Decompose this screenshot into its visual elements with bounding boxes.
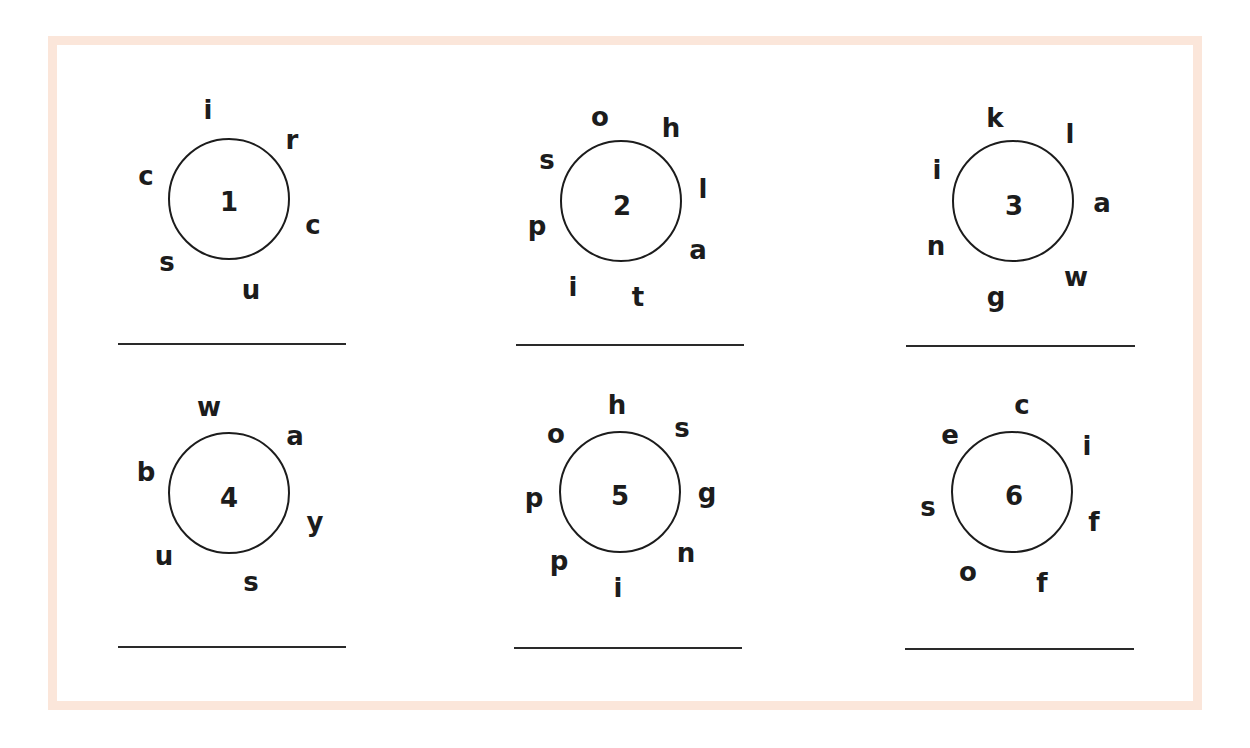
letter: f — [1088, 509, 1099, 535]
letter: u — [242, 277, 261, 303]
letter: p — [525, 485, 544, 511]
letter: i — [569, 274, 578, 300]
letter: g — [987, 284, 1006, 310]
letter: s — [920, 494, 935, 520]
letter: l — [1066, 121, 1075, 147]
letter: g — [698, 480, 717, 506]
puzzle-number: 6 — [1005, 481, 1023, 511]
letter: h — [608, 392, 627, 418]
letter: i — [933, 157, 942, 183]
letter: o — [591, 104, 609, 130]
puzzle-number: 5 — [611, 481, 629, 511]
letter: a — [689, 237, 707, 263]
letter: n — [677, 540, 696, 566]
letter: r — [286, 127, 299, 153]
answer-line[interactable] — [118, 343, 346, 345]
letter: c — [138, 163, 153, 189]
puzzle-number: 2 — [613, 191, 631, 221]
letter: o — [547, 421, 565, 447]
letter: l — [699, 176, 708, 202]
answer-line[interactable] — [514, 647, 742, 649]
letter: o — [959, 559, 977, 585]
puzzle-number: 3 — [1005, 191, 1023, 221]
letter: k — [986, 105, 1003, 131]
letter: e — [941, 422, 959, 448]
letter: s — [243, 569, 258, 595]
answer-line[interactable] — [905, 648, 1134, 650]
letter: p — [550, 548, 569, 574]
letter: w — [1064, 264, 1088, 290]
letter: c — [305, 212, 320, 238]
letter: y — [307, 509, 324, 535]
answer-line[interactable] — [118, 646, 346, 648]
answer-line[interactable] — [516, 344, 744, 346]
letter: a — [1093, 190, 1111, 216]
worksheet-frame — [48, 36, 1202, 710]
letter: s — [674, 415, 689, 441]
letter: w — [197, 394, 221, 420]
letter: s — [159, 249, 174, 275]
letter: t — [632, 284, 644, 310]
letter: i — [204, 97, 213, 123]
letter: i — [614, 575, 623, 601]
answer-line[interactable] — [906, 345, 1135, 347]
letter: u — [155, 543, 174, 569]
letter: s — [539, 147, 554, 173]
letter: p — [528, 213, 547, 239]
letter: f — [1036, 570, 1047, 596]
letter: h — [662, 115, 681, 141]
letter: b — [137, 459, 156, 485]
puzzle-number: 1 — [220, 187, 238, 217]
letter: a — [286, 423, 304, 449]
letter: c — [1014, 392, 1029, 418]
letter: i — [1083, 433, 1092, 459]
puzzle-number: 4 — [220, 483, 238, 513]
letter: n — [927, 233, 946, 259]
